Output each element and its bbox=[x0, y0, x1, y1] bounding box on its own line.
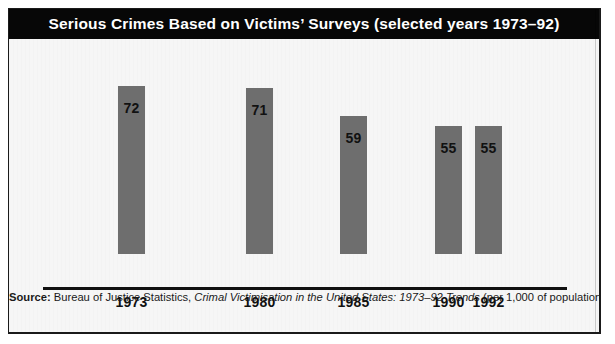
source-work-title: Crimal Victimisation in the United State… bbox=[194, 291, 480, 303]
bar-value-label-1985: 59 bbox=[328, 131, 379, 145]
page-title: Serious Crimes Based on Victims’ Surveys… bbox=[49, 16, 560, 32]
source-label: Source: bbox=[9, 291, 51, 303]
bar-value-label-1973: 72 bbox=[106, 101, 157, 115]
source-note: Source: Bureau of Justice Statistics, Cr… bbox=[9, 291, 599, 304]
source-publisher: Bureau of Justice Statistics, bbox=[51, 291, 195, 303]
chart-title-bar: Serious Crimes Based on Victims’ Surveys… bbox=[9, 9, 599, 39]
bar-value-label-1992: 55 bbox=[463, 141, 514, 155]
x-axis-line bbox=[43, 287, 567, 290]
plot-area: 721973711980591985551990551992 bbox=[9, 39, 599, 332]
chart-figure: Serious Crimes Based on Victims’ Surveys… bbox=[8, 8, 601, 334]
source-units-note: (per 1,000 of population) bbox=[480, 291, 601, 303]
page-edge-artifact bbox=[595, 9, 596, 332]
bar-value-label-1980: 71 bbox=[234, 103, 285, 117]
